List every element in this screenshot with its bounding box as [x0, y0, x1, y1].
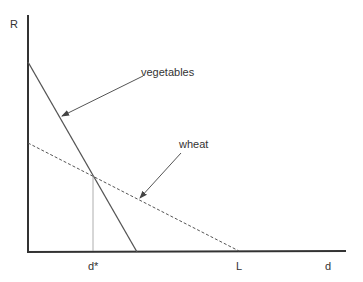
bid-rent-diagram: R d vegetables wheat d* L: [0, 0, 363, 282]
vegetables-arrow: [62, 76, 143, 116]
vegetables-line: [28, 62, 137, 252]
L-label: L: [236, 260, 242, 272]
y-axis-label: R: [10, 18, 18, 30]
wheat-line: [28, 143, 239, 251]
wheat-arrow: [140, 153, 181, 198]
x-axis: [27, 251, 346, 252]
x-axis-label: d: [325, 260, 331, 272]
vegetables-label: vegetables: [141, 66, 195, 78]
d-star-label: d*: [88, 260, 99, 272]
wheat-label: wheat: [178, 138, 208, 150]
